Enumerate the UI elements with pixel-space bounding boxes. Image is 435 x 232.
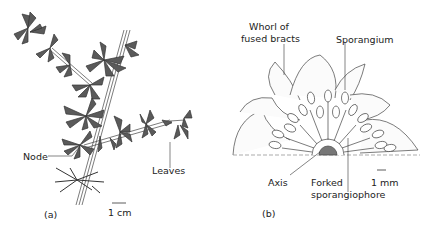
label-whorl-line2: fused bracts	[241, 33, 300, 44]
strobilus-drawing	[233, 42, 420, 192]
plant-drawing	[14, 12, 192, 205]
label-forked-line1: Forked	[311, 177, 343, 188]
scale-label-mm: 1 mm	[371, 177, 399, 188]
label-axis: Axis	[268, 177, 288, 188]
label-leaves: Leaves	[152, 165, 185, 176]
axis-leader	[290, 152, 320, 175]
label-node: Node	[23, 151, 48, 162]
label-forked-line2: sporangiophore	[311, 189, 385, 200]
caption-b: (b)	[262, 208, 275, 219]
label-whorl-line1: Whorl of	[249, 21, 289, 32]
scale-label-cm: 1 cm	[108, 207, 132, 218]
caption-a: (a)	[44, 209, 57, 220]
branch-upper-left	[50, 48, 92, 85]
label-sporangium: Sporangium	[336, 34, 394, 45]
